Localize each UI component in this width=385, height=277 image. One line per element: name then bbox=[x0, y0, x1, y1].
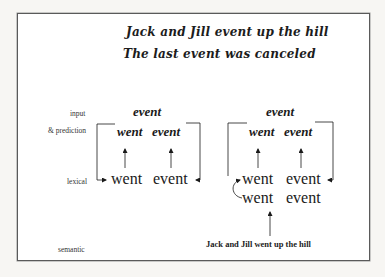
right-bracket-right bbox=[315, 122, 333, 180]
connector-lines bbox=[0, 0, 385, 277]
right-bracket-left bbox=[228, 123, 247, 176]
curved-arrow-went bbox=[233, 180, 242, 198]
left-bracket-left bbox=[97, 124, 115, 180]
left-bracket-right bbox=[186, 123, 200, 180]
